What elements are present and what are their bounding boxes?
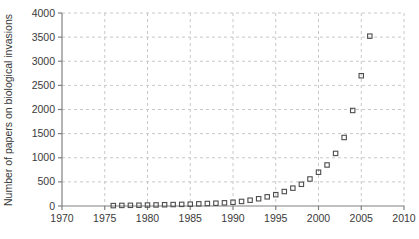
x-tick-label: 1980 <box>136 212 160 224</box>
scatter-plot: 05001000150020002500300035004000 1970197… <box>0 0 419 239</box>
x-tick-label: 2005 <box>350 212 374 224</box>
y-tick-label: 1000 <box>32 151 56 163</box>
y-axis-title-text: Number of papers on biological invasions <box>2 14 14 206</box>
x-tick-labels: 197019751980198519901995200020052010 <box>50 212 416 224</box>
x-tick-label: 2010 <box>392 212 416 224</box>
x-tick-label: 1995 <box>264 212 288 224</box>
y-tick-label: 1500 <box>32 127 56 139</box>
y-tick-label: 4000 <box>32 7 56 19</box>
x-tick-label: 1975 <box>93 212 117 224</box>
y-tick-label: 3500 <box>32 31 56 43</box>
y-tick-label: 3000 <box>32 55 56 67</box>
x-tick-label: 1990 <box>221 212 245 224</box>
x-tick-label: 2000 <box>307 212 331 224</box>
y-tick-label: 0 <box>49 200 55 212</box>
y-tick-label: 2500 <box>32 79 56 91</box>
chart-figure: 05001000150020002500300035004000 1970197… <box>0 0 419 239</box>
y-tick-label: 500 <box>37 175 55 187</box>
x-tick-label: 1985 <box>179 212 203 224</box>
y-axis-title: Number of papers on biological invasions <box>2 14 14 206</box>
x-tick-label: 1970 <box>50 212 74 224</box>
y-tick-label: 2000 <box>32 103 56 115</box>
